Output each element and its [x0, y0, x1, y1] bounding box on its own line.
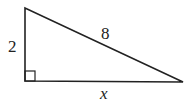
horizontal-leg-label: x — [99, 84, 108, 103]
right-angle-marker — [25, 71, 35, 81]
hypotenuse-label: 8 — [101, 24, 110, 43]
vertical-leg-label: 2 — [8, 37, 17, 56]
right-triangle — [25, 8, 183, 82]
triangle-diagram: 2 8 x — [0, 0, 186, 105]
